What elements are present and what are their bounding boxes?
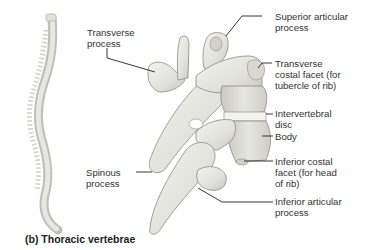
label-inferior-costal-facet: Inferior costal facet (for head of rib) [275, 156, 337, 189]
spine-thumbnail [29, 14, 58, 230]
label-transverse-costal-facet: Transverse costal facet (for tubercle of… [275, 58, 341, 91]
label-spinous-process: Spinous process [86, 167, 121, 189]
label-transverse-process: Transverse process [87, 27, 135, 49]
label-intervertebral-disc: Intervertebral disc [275, 108, 332, 130]
label-body: Body [275, 131, 297, 142]
thoracic-vertebrae-figure: Transverse process Superior articular pr… [0, 0, 366, 250]
label-inferior-articular-process: Inferior articular process [275, 196, 342, 218]
label-superior-articular-process: Superior articular process [275, 11, 348, 33]
figure-caption: (b) Thoracic vertebrae [25, 233, 135, 245]
